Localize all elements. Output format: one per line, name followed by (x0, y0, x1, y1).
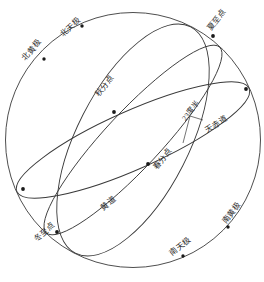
celestial-sphere-diagram: 北黄极 北天极 夏至点 秋分点 23度半 天赤道 春分点 黄道 冬至点 南天极 … (0, 0, 264, 282)
marker-north-celestial-pole (80, 24, 83, 27)
marker-north-ecliptic-pole (42, 57, 45, 60)
celestial-equator-curve (5, 62, 261, 218)
ecliptic-curve (26, 28, 240, 252)
marker-spring-equinox (146, 162, 150, 166)
marker-summer-solstice (211, 34, 215, 38)
marker-winter-solstice (55, 230, 59, 234)
marker-group (21, 24, 248, 257)
marker-equator-right (244, 87, 248, 91)
marker-autumn-equinox (112, 110, 116, 114)
marker-equator-left (21, 187, 25, 191)
solstitial-colure-curve (25, 1, 240, 278)
marker-south-celestial-pole (181, 254, 184, 257)
